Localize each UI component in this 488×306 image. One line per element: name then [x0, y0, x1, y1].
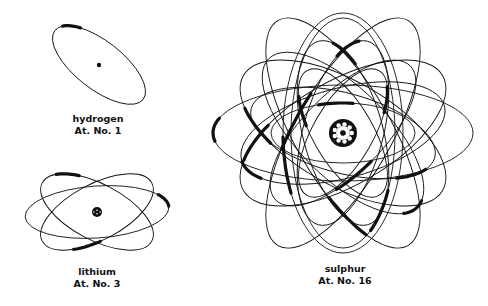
- sulphur-atom: [213, 0, 473, 270]
- sulphur-electron: [213, 118, 219, 141]
- sulphur-name: sulphur: [305, 263, 385, 275]
- sulphur-atomic-number: At. No. 16: [305, 275, 385, 287]
- lithium-electron: [74, 241, 101, 249]
- lithium-atomic-number: At. No. 3: [57, 278, 137, 290]
- hydrogen-name: hydrogen: [58, 113, 138, 125]
- sulphur-electron: [244, 125, 268, 160]
- sulphur-nucleon: [342, 122, 346, 126]
- sulphur-nucleon: [349, 131, 353, 135]
- sulphur-electron: [242, 162, 261, 179]
- sulphur-nucleon: [347, 125, 351, 129]
- lithium-nucleon: [93, 211, 95, 213]
- hydrogen-atom: [40, 12, 158, 119]
- sulphur-electron: [318, 103, 353, 105]
- hydrogen-electron: [63, 26, 81, 28]
- lithium-name: lithium: [57, 266, 137, 278]
- sulphur-nucleon: [333, 128, 337, 132]
- lithium-nucleon: [96, 213, 98, 215]
- sulphur-label: sulphur At. No. 16: [305, 263, 385, 287]
- lithium-nucleon: [96, 209, 98, 211]
- atom-diagrams: [0, 0, 488, 306]
- sulphur-nucleon: [342, 139, 346, 143]
- hydrogen-nucleus: [97, 63, 101, 67]
- sulphur-electron: [404, 201, 422, 214]
- sulphur-nucleon: [345, 129, 349, 133]
- lithium-electron: [56, 174, 79, 176]
- sulphur-electron: [329, 197, 366, 234]
- sulphur-nucleon: [336, 138, 340, 142]
- sulphur-electron: [283, 137, 291, 193]
- lithium-electron: [158, 195, 168, 206]
- lithium-label: lithium At. No. 3: [57, 266, 137, 290]
- hydrogen-atomic-number: At. No. 1: [58, 125, 138, 137]
- sulphur-nucleon: [347, 136, 351, 140]
- lithium-nucleon: [99, 211, 101, 213]
- hydrogen-label: hydrogen At. No. 1: [58, 113, 138, 137]
- lithium-atom: [23, 158, 170, 266]
